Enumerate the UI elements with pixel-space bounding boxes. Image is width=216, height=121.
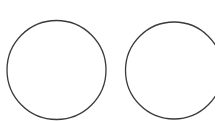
left-circle: [7, 21, 106, 120]
right-circle: [126, 22, 216, 119]
diagram-canvas: [0, 0, 215, 121]
